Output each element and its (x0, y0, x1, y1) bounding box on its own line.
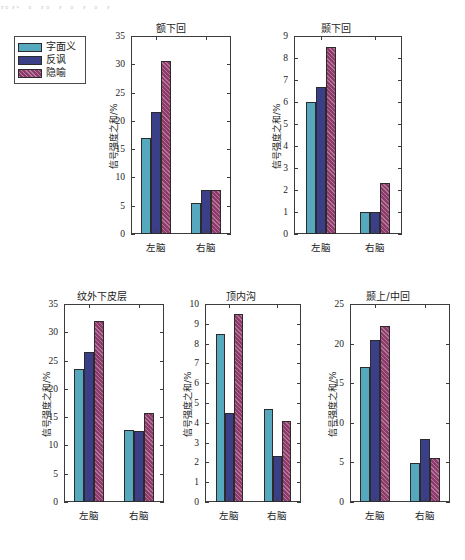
y-axis-tick-mark (294, 212, 298, 213)
x-axis-tick-label: 右脑 (267, 508, 287, 522)
y-axis-tick-mark (297, 403, 301, 404)
y-axis-tick-mark (131, 206, 135, 207)
y-axis-tick-mark (297, 324, 301, 325)
y-axis-tick-mark (227, 149, 231, 150)
y-axis-tick-mark (297, 443, 301, 444)
bar (134, 431, 144, 502)
y-axis-tick-mark (398, 146, 402, 147)
y-axis-tick-label: 1 (262, 207, 288, 217)
y-axis-tick-mark (294, 124, 298, 125)
y-axis-tick-mark (205, 383, 209, 384)
y-axis-tick-mark (160, 474, 164, 475)
y-axis-tick-mark (297, 383, 301, 384)
x-axis-tick-mark (89, 304, 90, 308)
y-axis-tick-mark (446, 304, 450, 305)
y-axis-tick-label: 10 (318, 418, 344, 428)
y-axis-tick-label: 5 (262, 119, 288, 129)
y-axis-tick-label: 25 (103, 88, 125, 98)
y-axis-tick-mark (205, 363, 209, 364)
x-axis-tick-mark (156, 230, 157, 234)
y-axis-tick-mark (398, 168, 402, 169)
y-axis-tick-mark (131, 36, 135, 37)
x-axis-tick-label: 左脑 (146, 240, 166, 254)
x-axis-tick-label: 右脑 (415, 508, 435, 522)
x-axis-tick-mark (277, 498, 278, 502)
y-axis-tick-label: 6 (262, 97, 288, 107)
y-axis-tick-mark (294, 190, 298, 191)
y-axis-tick-mark (131, 93, 135, 94)
bar (282, 421, 291, 502)
bar (201, 190, 211, 234)
chart-legend: 字面义 反讽 隐喻 (14, 36, 86, 84)
legend-item: 反讽 (18, 54, 82, 66)
x-axis-tick-label: 左脑 (219, 508, 239, 522)
y-axis-tick-mark (64, 445, 68, 446)
y-axis-tick-mark (294, 36, 298, 37)
chart-panel: 颞下回信号强度之和/%0123456789左脑右脑 (262, 20, 410, 265)
figure-page: ，。，、 。 ，。 ， 。 ， 。 ， 字面义 反讽 隐喻 额下回信号强度之和/… (0, 0, 465, 560)
y-axis-tick-mark (398, 36, 402, 37)
y-axis-tick-label: 30 (32, 327, 58, 337)
y-axis-tick-mark (227, 206, 231, 207)
bar (216, 334, 225, 502)
legend-label-literal: 字面义 (46, 42, 76, 52)
y-axis-tick-mark (350, 423, 354, 424)
y-axis-tick-mark (64, 361, 68, 362)
y-axis-tick-mark (446, 383, 450, 384)
y-axis-tick-mark (205, 344, 209, 345)
y-axis-tick-mark (160, 445, 164, 446)
y-axis-tick-mark (227, 121, 231, 122)
x-axis-tick-label: 右脑 (196, 240, 216, 254)
chart-panel: 额下回信号强度之和/%05101520253035左脑右脑 (103, 20, 239, 265)
y-axis-tick-mark (205, 423, 209, 424)
x-axis-tick-mark (89, 498, 90, 502)
x-axis-tick-label: 左脑 (365, 508, 385, 522)
legend-item: 字面义 (18, 41, 82, 53)
y-axis-tick-label: 5 (103, 201, 125, 211)
y-axis-tick-mark (350, 462, 354, 463)
y-axis-tick-mark (131, 234, 135, 235)
y-axis-tick-label: 15 (32, 412, 58, 422)
y-axis-tick-mark (205, 324, 209, 325)
y-axis-tick-label: 0 (103, 229, 125, 239)
y-axis-tick-label: 2 (262, 185, 288, 195)
x-axis-tick-mark (375, 36, 376, 40)
x-axis-tick-mark (425, 304, 426, 308)
y-axis-tick-mark (64, 389, 68, 390)
y-axis-tick-mark (297, 462, 301, 463)
bar (161, 61, 171, 234)
bar (144, 413, 154, 502)
y-axis-tick-mark (160, 304, 164, 305)
y-axis-tick-mark (297, 304, 301, 305)
y-axis-tick-label: 2 (175, 457, 199, 467)
x-axis-tick-mark (375, 304, 376, 308)
bar (316, 87, 326, 234)
x-axis-tick-mark (321, 230, 322, 234)
y-axis-tick-label: 0 (318, 497, 344, 507)
y-axis-tick-mark (350, 502, 354, 503)
y-axis-tick-mark (160, 502, 164, 503)
y-axis-tick-mark (205, 304, 209, 305)
legend-label-irony: 反讽 (46, 55, 66, 65)
y-axis-tick-mark (64, 332, 68, 333)
x-axis-tick-label: 左脑 (311, 240, 331, 254)
y-axis-tick-label: 10 (32, 440, 58, 450)
y-axis-tick-mark (160, 361, 164, 362)
y-axis-tick-mark (294, 80, 298, 81)
y-axis-tick-mark (160, 332, 164, 333)
y-axis-tick-mark (398, 102, 402, 103)
y-axis-tick-label: 25 (318, 299, 344, 309)
legend-swatch-irony (18, 56, 42, 65)
y-axis-tick-mark (297, 363, 301, 364)
bar (430, 458, 440, 502)
x-axis-tick-label: 左脑 (79, 508, 99, 522)
y-axis-tick-label: 5 (32, 469, 58, 479)
chart-panel: 顶内沟信号强度之和/%012345678910左脑右脑 (175, 288, 307, 533)
bar (273, 456, 282, 502)
x-axis-tick-mark (206, 230, 207, 234)
y-axis-tick-mark (205, 502, 209, 503)
y-axis-tick-mark (64, 417, 68, 418)
y-axis-tick-mark (398, 212, 402, 213)
x-axis-tick-mark (321, 36, 322, 40)
y-axis-label: 信号强度之和/% (107, 103, 120, 169)
